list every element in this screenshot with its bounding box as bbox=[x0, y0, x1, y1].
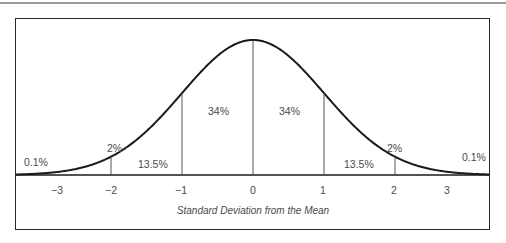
label-right-tail: 0.1% bbox=[462, 151, 486, 163]
label-left-34pct: 34% bbox=[208, 105, 229, 117]
tick-plus-2: 2 bbox=[391, 184, 397, 196]
label-left-tail: 0.1% bbox=[24, 156, 48, 168]
tick-minus-1: −1 bbox=[175, 184, 187, 196]
label-left-2pct: 2% bbox=[107, 142, 122, 154]
label-left-13-5pct: 13.5% bbox=[138, 158, 168, 170]
label-right-13-5pct: 13.5% bbox=[344, 158, 374, 170]
normal-distribution-chart: 0.1% 2% 13.5% 34% 34% 13.5% 2% 0.1% −3 −… bbox=[0, 0, 506, 243]
tick-plus-3: 3 bbox=[444, 184, 450, 196]
tick-minus-2: −2 bbox=[105, 184, 117, 196]
label-right-34pct: 34% bbox=[279, 105, 300, 117]
tick-zero: 0 bbox=[250, 184, 256, 196]
label-right-2pct: 2% bbox=[387, 142, 402, 154]
tick-plus-1: 1 bbox=[320, 184, 326, 196]
tick-minus-3: −3 bbox=[51, 184, 63, 196]
x-axis-title: Standard Deviation from the Mean bbox=[177, 205, 330, 216]
